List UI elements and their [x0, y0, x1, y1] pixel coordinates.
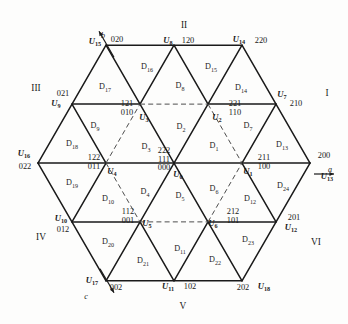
- switching-state-U11: 102: [184, 283, 197, 291]
- switching-state-U10: 012: [57, 226, 70, 234]
- vector-label-U11: U11: [162, 282, 174, 293]
- axis-label-c: c: [84, 293, 88, 301]
- region-label-D1: D1: [210, 142, 219, 152]
- region-label-D21: D21: [137, 257, 149, 267]
- vector-label-U12: U12: [285, 223, 297, 234]
- space-vector-diagram: U0222111000U1211100U2221110U3121010U4122…: [0, 0, 348, 324]
- vector-label-U18: U18: [258, 282, 270, 293]
- vector-label-U14: U14: [233, 35, 245, 46]
- vector-label-U17: U17: [86, 276, 98, 287]
- switching-state-U5: 112001: [122, 208, 135, 225]
- diagram-canvas: [0, 0, 348, 324]
- switching-state-U14: 220: [255, 37, 268, 45]
- region-label-D3: D3: [142, 143, 151, 153]
- vector-label-U1: U1: [243, 167, 252, 178]
- vector-label-U16: U16: [18, 149, 30, 160]
- sector-label-V: V: [180, 302, 187, 311]
- vector-label-U10: U10: [55, 214, 67, 225]
- vector-label-U7: U7: [277, 90, 286, 101]
- vector-label-U3: U3: [139, 113, 148, 124]
- region-label-D6: D6: [210, 185, 219, 195]
- switching-state-U15: 020: [111, 36, 124, 44]
- switching-state-U16: 022: [19, 163, 32, 171]
- region-label-D10: D10: [102, 195, 114, 205]
- region-label-D23: D23: [242, 236, 254, 246]
- region-label-D7: D7: [244, 122, 253, 132]
- sector-label-III: III: [31, 84, 40, 93]
- axis-label-a: a: [328, 166, 332, 174]
- region-label-D9: D9: [91, 122, 100, 132]
- switching-state-U7: 210: [290, 100, 303, 108]
- vector-label-U2: U2: [212, 113, 221, 124]
- switching-state-U1: 211100: [258, 154, 271, 171]
- vector-label-U8: U8: [163, 36, 172, 47]
- region-label-D5: D5: [176, 192, 185, 202]
- region-label-D8: D8: [176, 82, 185, 92]
- region-label-D4: D4: [141, 188, 150, 198]
- sector-label-II: II: [181, 21, 187, 30]
- switching-state-U17: 002: [110, 284, 123, 292]
- region-label-D20: D20: [102, 238, 114, 248]
- switching-state-U8: 120: [182, 37, 195, 45]
- region-label-D22: D22: [209, 256, 221, 266]
- vector-label-U4: U4: [107, 167, 116, 178]
- region-label-D17: D17: [99, 83, 111, 93]
- region-label-D16: D16: [141, 63, 153, 73]
- switching-state-U9: 021: [57, 90, 70, 98]
- vector-label-U15: U15: [89, 37, 101, 48]
- vector-label-U9: U9: [51, 99, 60, 110]
- switching-state-U4: 122011: [88, 154, 101, 171]
- switching-state-U6: 212101: [227, 208, 240, 225]
- switching-state-U3: 121010: [121, 100, 134, 117]
- region-label-D24: D24: [277, 182, 289, 192]
- vector-label-U5: U5: [142, 219, 151, 230]
- region-label-D12: D12: [244, 195, 256, 205]
- sector-label-IV: IV: [36, 233, 46, 242]
- vector-label-U0: U0: [173, 170, 182, 181]
- region-label-D15: D15: [205, 63, 217, 73]
- region-label-D14: D14: [235, 84, 247, 94]
- switching-state-U13: 200: [318, 152, 331, 160]
- switching-state-U12: 201: [288, 214, 301, 222]
- switching-state-U18: 202: [237, 284, 250, 292]
- sector-label-VI: VI: [311, 238, 321, 247]
- sector-label-I: I: [325, 89, 328, 98]
- region-label-D19: D19: [66, 179, 78, 189]
- region-label-D18: D18: [66, 140, 78, 150]
- region-label-D13: D13: [276, 141, 288, 151]
- region-label-D2: D2: [177, 123, 186, 133]
- switching-state-U0: 222111000: [158, 147, 171, 173]
- region-label-D11: D11: [174, 245, 186, 255]
- axis-label-b: b: [101, 32, 105, 40]
- switching-state-U2: 221110: [229, 100, 242, 117]
- vector-label-U6: U6: [208, 219, 217, 230]
